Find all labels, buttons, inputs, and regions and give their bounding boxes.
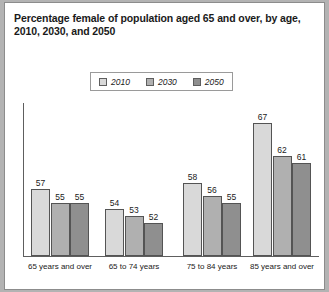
legend-swatch-icon-2010 — [99, 78, 107, 86]
bar-slot: 55 — [222, 103, 241, 256]
bar-value-label: 55 — [70, 192, 89, 202]
bar-slot: 54 — [105, 103, 124, 256]
bar-value-label: 61 — [292, 152, 311, 162]
legend-label-2010: 2010 — [111, 77, 130, 87]
bar-slot: 56 — [203, 103, 222, 256]
x-axis-line — [23, 256, 319, 257]
plot-area: 575555545352585655676261 — [23, 103, 319, 257]
bar-slot: 55 — [51, 103, 70, 256]
chart-title-line-2: 2010, 2030, and 2050 — [14, 25, 314, 38]
bar[interactable] — [183, 183, 202, 256]
legend-swatch-icon-2030 — [146, 78, 154, 86]
bar[interactable] — [273, 156, 292, 256]
chart-title: Percentage female of population aged 65 … — [14, 12, 314, 38]
legend-swatch-icon-2050 — [193, 78, 201, 86]
bar-value-label: 52 — [144, 212, 163, 222]
bar[interactable] — [70, 203, 89, 256]
y-axis-line — [23, 103, 24, 257]
bar-slot: 58 — [183, 103, 202, 256]
bar-group: 676261 — [253, 103, 311, 256]
bar[interactable] — [203, 196, 222, 256]
bar[interactable] — [253, 123, 272, 256]
bar-slot: 55 — [70, 103, 89, 256]
bar-slot: 67 — [253, 103, 272, 256]
x-axis-category-label: 65 to 74 years — [93, 262, 175, 271]
bar[interactable] — [222, 203, 241, 256]
legend-item-2010: 2010 — [99, 77, 130, 87]
bar-group: 585655 — [183, 103, 241, 256]
bar-value-label: 53 — [125, 205, 144, 215]
x-axis-category-label: 85 years and over — [241, 262, 323, 271]
bar-value-label: 57 — [31, 178, 50, 188]
legend-label-2050: 2050 — [205, 77, 224, 87]
bar-slot: 61 — [292, 103, 311, 256]
legend-label-2030: 2030 — [158, 77, 177, 87]
bar-slot: 53 — [125, 103, 144, 256]
bar[interactable] — [31, 189, 50, 256]
bar-value-label: 54 — [105, 198, 124, 208]
bar-slot: 52 — [144, 103, 163, 256]
bar-value-label: 55 — [51, 192, 70, 202]
bar-group: 545352 — [105, 103, 163, 256]
chart-figure: Percentage female of population aged 65 … — [4, 2, 325, 290]
bar-value-label: 62 — [273, 145, 292, 155]
bar-value-label: 56 — [203, 185, 222, 195]
bar[interactable] — [51, 203, 70, 256]
chart-title-line-1: Percentage female of population aged 65 … — [14, 12, 314, 25]
bar-slot: 62 — [273, 103, 292, 256]
bar-value-label: 67 — [253, 112, 272, 122]
bar[interactable] — [144, 223, 163, 256]
chart-legend: 2010 2030 2050 — [90, 72, 233, 91]
bar[interactable] — [105, 209, 124, 256]
bar-value-label: 58 — [183, 172, 202, 182]
bar-group: 575555 — [31, 103, 89, 256]
bar[interactable] — [125, 216, 144, 256]
bar-slot: 57 — [31, 103, 50, 256]
bar[interactable] — [292, 163, 311, 256]
x-axis-category-label: 65 years and over — [19, 262, 101, 271]
legend-item-2050: 2050 — [193, 77, 224, 87]
bar-value-label: 55 — [222, 192, 241, 202]
legend-item-2030: 2030 — [146, 77, 177, 87]
